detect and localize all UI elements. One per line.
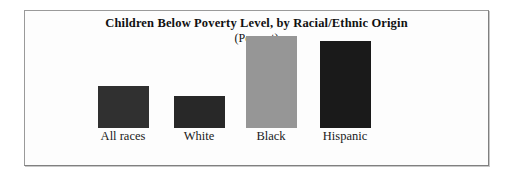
- bar-label-hispanic: Hispanic: [307, 129, 383, 144]
- bar-group-black: Black: [233, 36, 309, 144]
- bar-label-white: White: [161, 129, 237, 144]
- bar-hispanic: [320, 41, 371, 128]
- bar-white: [174, 96, 225, 128]
- bar-label-all-races: All races: [85, 129, 161, 144]
- plot-area: All races White Black Hispanic: [25, 11, 488, 165]
- bar-group-hispanic: Hispanic: [307, 41, 383, 144]
- bar-group-all-races: All races: [85, 86, 161, 144]
- bar-group-white: White: [161, 96, 237, 144]
- chart-frame: Children Below Poverty Level, by Racial/…: [24, 10, 489, 166]
- bar-label-black: Black: [233, 129, 309, 144]
- bar-black: [246, 36, 297, 128]
- bar-all-races: [98, 86, 149, 128]
